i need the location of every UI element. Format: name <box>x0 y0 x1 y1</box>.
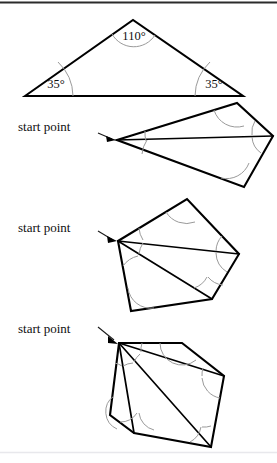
angle-arc-quad-right-upper <box>252 121 255 135</box>
angle-label-right: 35° <box>205 77 223 91</box>
figure-page: 110° 35° 35° start point <box>0 0 277 463</box>
angle-arc-hex-bottomleft-2 <box>139 413 154 430</box>
angle-arc-hex-bottomright-2 <box>202 426 211 427</box>
angle-arc-quad-right-lower <box>252 137 261 153</box>
angle-arc-pent-start-2 <box>139 243 143 254</box>
angle-arc-quad-bottom <box>221 163 249 179</box>
start-point-label-quadrilateral: start point <box>18 119 71 134</box>
quadrilateral-shape: start point <box>18 103 273 187</box>
angle-label-left: 35° <box>47 77 65 91</box>
angle-arc-pent-start-1 <box>139 228 143 240</box>
angle-label-apex: 110° <box>122 29 145 43</box>
start-point-label-hexagon: start point <box>18 321 71 336</box>
pentagon-outline <box>118 199 239 311</box>
angle-arc-pent-bottomleft <box>128 288 154 308</box>
angle-arc-pent-start-3 <box>123 256 138 266</box>
start-point-label-pentagon: start point <box>18 220 71 235</box>
hexagon-leader-line <box>98 327 114 340</box>
pentagon-arrow-icon <box>107 236 117 243</box>
angle-arc-hex-right-2 <box>202 378 220 398</box>
quadrilateral-diagonal-1 <box>117 136 273 140</box>
quadrilateral-arrow-icon <box>106 136 116 142</box>
angle-arc-hex-start-2 <box>134 354 140 362</box>
pentagon-shape: start point <box>18 199 239 311</box>
angle-arc-hex-start-3 <box>123 363 133 366</box>
hexagon-arrow-icon <box>108 336 118 344</box>
quadrilateral-outline <box>117 103 273 187</box>
hexagon-shape: start point <box>18 321 224 447</box>
angle-arc-pent-right-upper <box>216 236 222 251</box>
angle-arc-pent-bottomright-1 <box>194 277 207 288</box>
triangle-shape: 110° 35° 35° <box>25 20 243 96</box>
angle-arc-quad-top <box>214 110 244 127</box>
angle-arc-pent-right-lower <box>216 253 227 272</box>
angle-arc-hex-bottomleft-1 <box>120 413 137 422</box>
angle-arc-pent-top <box>166 212 195 224</box>
polygon-angle-sum-figure: 110° 35° 35° start point <box>0 0 277 463</box>
